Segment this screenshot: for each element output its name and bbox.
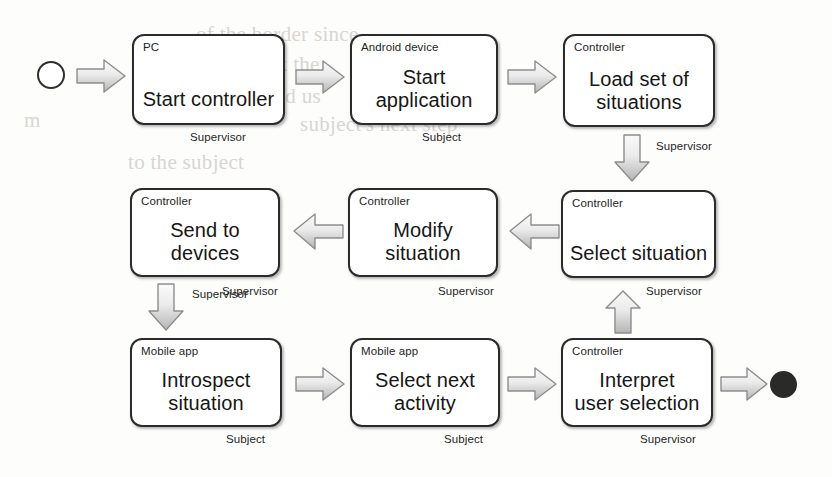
- node-title-line2: situation: [132, 392, 280, 415]
- diagram-canvas: of the border since a check the n it wou…: [0, 0, 832, 477]
- node-introspect-situation[interactable]: Mobile app Introspect situation: [130, 338, 282, 427]
- node-title: Start controller: [134, 88, 283, 111]
- node-title-line1: Send to: [132, 219, 278, 242]
- node-title-line2: user selection: [563, 392, 711, 415]
- edge-start-controller-to-start-application-arrow: [294, 58, 346, 96]
- node-role-label: Controller: [141, 195, 192, 208]
- edge-start-to-start-controller-arrow: [75, 58, 127, 94]
- node-start-application[interactable]: Android device Start application: [350, 34, 498, 125]
- edge-modify-situation-to-send-to-devices-arrow: [291, 211, 345, 253]
- node-role-label: Controller: [359, 195, 410, 208]
- edge-label-interpret-to-select: Supervisor: [646, 285, 702, 297]
- node-title-line2: situations: [565, 91, 713, 114]
- node-start-controller[interactable]: PC Start controller: [132, 34, 285, 125]
- node-title-line1: Select next: [352, 369, 498, 392]
- node-title-line2: activity: [352, 392, 498, 415]
- actor-label-introspect-situation: Subject: [226, 433, 265, 445]
- background-bleed-text: to the subject: [128, 150, 244, 175]
- background-bleed-text: m: [24, 108, 41, 133]
- node-role-label: Mobile app: [141, 345, 198, 358]
- edge-introspect-to-select-next-activity-arrow: [294, 365, 346, 403]
- node-role-label: Android device: [361, 41, 438, 54]
- node-title-line1: Start: [352, 66, 496, 89]
- actor-label-interpret-user-selection: Supervisor: [640, 433, 696, 445]
- actor-label-send-to-devices: Supervisor: [222, 285, 278, 297]
- node-modify-situation[interactable]: Controller Modify situation: [348, 188, 498, 277]
- node-title-line2: application: [352, 89, 496, 112]
- node-title-line2: devices: [132, 242, 278, 265]
- node-role-label: Mobile app: [361, 345, 418, 358]
- actor-label-start-application: Subject: [422, 131, 461, 143]
- node-title-line1: Interpret: [563, 369, 711, 392]
- actor-label-start-controller: Supervisor: [190, 131, 246, 143]
- end-circle: [770, 371, 797, 398]
- node-title-line1: Load set of: [565, 68, 713, 91]
- node-title-line2: situation: [350, 242, 496, 265]
- actor-label-select-next-activity: Subject: [444, 433, 483, 445]
- node-select-situation[interactable]: Controller Select situation: [561, 190, 716, 278]
- node-interpret-user-selection[interactable]: Controller Interpret user selection: [561, 338, 713, 427]
- node-load-set-of-situations[interactable]: Controller Load set of situations: [563, 34, 715, 127]
- start-circle: [37, 61, 65, 89]
- edge-select-situation-to-modify-situation-arrow: [507, 211, 561, 253]
- edge-select-next-activity-to-interpret-arrow: [506, 365, 558, 403]
- node-role-label: PC: [143, 41, 159, 54]
- node-role-label: Controller: [572, 345, 623, 358]
- edge-interpret-to-select-situation-arrow: [603, 289, 643, 335]
- edge-interpret-to-end-arrow: [719, 365, 769, 403]
- node-role-label: Controller: [572, 197, 623, 210]
- node-title-line1: Introspect: [132, 369, 280, 392]
- edge-send-to-devices-to-introspect-arrow: [146, 282, 186, 332]
- node-title-line1: Modify: [350, 219, 496, 242]
- edge-start-application-to-load-situations-arrow: [506, 58, 558, 96]
- edge-load-situations-to-select-situation-arrow: [612, 133, 652, 183]
- node-role-label: Controller: [574, 41, 625, 54]
- node-send-to-devices[interactable]: Controller Send to devices: [130, 188, 280, 277]
- node-title: Select situation: [563, 242, 714, 265]
- node-select-next-activity[interactable]: Mobile app Select next activity: [350, 338, 500, 427]
- edge-label-load-to-select: Supervisor: [656, 140, 712, 152]
- actor-label-modify-situation: Supervisor: [438, 285, 494, 297]
